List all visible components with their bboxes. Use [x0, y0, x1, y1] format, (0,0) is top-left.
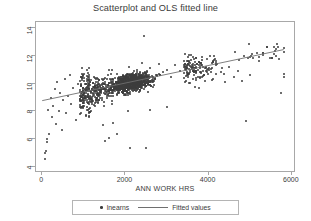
- y-tick-label: 4: [27, 166, 34, 170]
- legend-label-lnearns: lnearns: [107, 204, 129, 211]
- y-tick-label: 14: [27, 26, 34, 34]
- legend-item-lnearns: lnearns: [100, 204, 129, 211]
- plot-area: [35, 21, 295, 172]
- fitted-line-layer: [36, 22, 294, 171]
- y-tick-label: 12: [27, 54, 34, 62]
- scatterplot-figure: Scatterplot and OLS fitted line 46810121…: [0, 0, 311, 221]
- x-tick-label: 6000: [283, 176, 299, 183]
- x-tick-mark: [208, 172, 209, 175]
- y-tick-label: 10: [27, 82, 34, 90]
- x-tick-label: 0: [39, 176, 43, 183]
- y-axis: 468101214: [0, 21, 35, 172]
- x-tick-mark: [124, 172, 125, 175]
- legend-label-fitted-values: Fitted values: [172, 204, 211, 211]
- x-tick-mark: [41, 172, 42, 175]
- x-tick-mark: [291, 172, 292, 175]
- x-tick-label: 2000: [117, 176, 133, 183]
- ols-fitted-line: [42, 50, 283, 101]
- x-axis-title: ANN WORK HRS: [35, 184, 295, 193]
- y-tick-label: 8: [27, 110, 34, 114]
- legend-item-fitted-values: Fitted values: [138, 204, 211, 211]
- chart-legend: lnearns Fitted values: [72, 200, 239, 215]
- x-tick-label: 4000: [200, 176, 216, 183]
- y-tick-label: 6: [27, 138, 34, 142]
- scatter-marker-icon: [100, 206, 103, 209]
- line-marker-icon: [138, 207, 168, 208]
- chart-title: Scatterplot and OLS fitted line: [0, 3, 311, 13]
